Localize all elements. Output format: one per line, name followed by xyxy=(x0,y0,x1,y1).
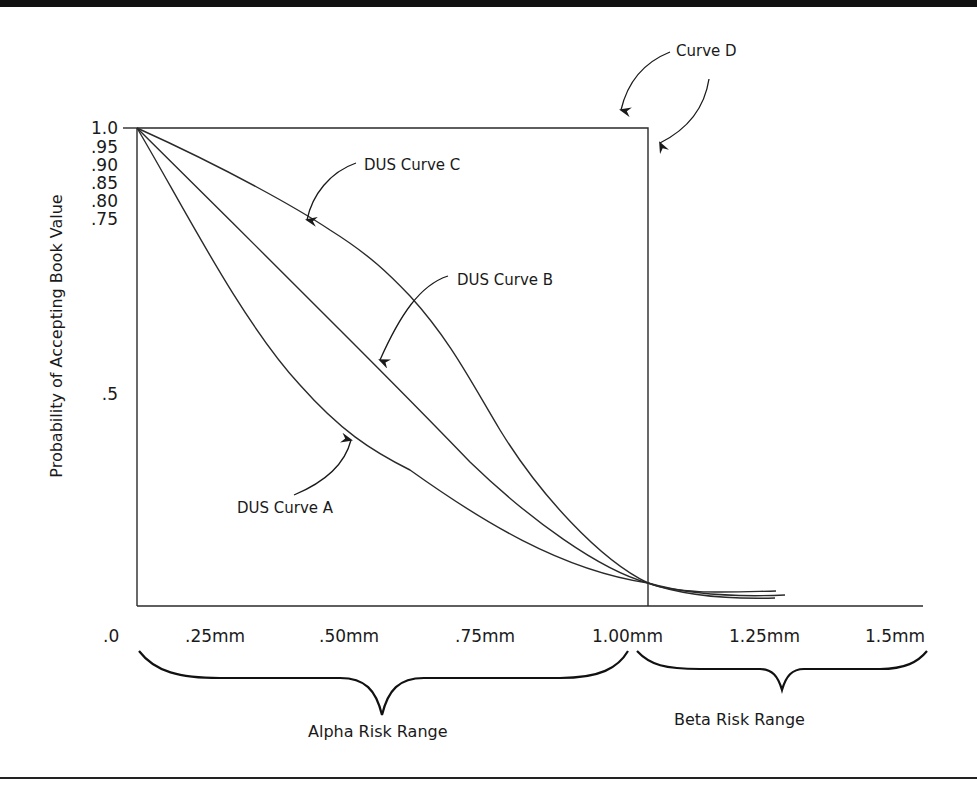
curve-b-arrow xyxy=(380,276,448,360)
y-tick-label: .5 xyxy=(78,385,118,403)
curve-a-arrow xyxy=(294,440,351,495)
alpha-risk-range-label: Alpha Risk Range xyxy=(308,722,448,741)
y-tick-label: .75 xyxy=(78,210,118,228)
y-tick-label: 1.0 xyxy=(78,119,118,137)
y-tick-label: .95 xyxy=(78,138,118,156)
curve-d-arrow-right xyxy=(660,79,709,143)
curve-d-arrow-left xyxy=(621,52,670,110)
alpha-brace xyxy=(139,651,628,715)
x-tick-label: .75mm xyxy=(455,626,515,646)
curve-b xyxy=(137,128,785,596)
curve-a xyxy=(137,128,775,598)
curve-a-label: DUS Curve A xyxy=(237,499,333,517)
y-tick-label: .85 xyxy=(78,174,118,192)
beta-risk-range-label: Beta Risk Range xyxy=(674,710,805,729)
x-tick-label: .0 xyxy=(103,626,119,646)
x-tick-label: .50mm xyxy=(319,626,379,646)
y-axis-label: Probability of Accepting Book Value xyxy=(47,194,66,477)
beta-brace xyxy=(637,651,927,690)
x-tick-label: 1.00mm xyxy=(592,626,663,646)
x-tick-label: 1.5mm xyxy=(865,626,925,646)
y-tick-label: .90 xyxy=(78,156,118,174)
x-tick-label: .25mm xyxy=(185,626,245,646)
curve-c-label: DUS Curve C xyxy=(364,156,460,174)
y-tick-label: .80 xyxy=(78,192,118,210)
bottom-rule xyxy=(0,777,977,779)
x-tick-label: 1.25mm xyxy=(729,626,800,646)
curve-c-arrow xyxy=(307,163,356,220)
curve-d-label: Curve D xyxy=(676,42,737,60)
curve-d xyxy=(137,128,648,606)
curve-c xyxy=(137,128,776,592)
chart-plot xyxy=(0,0,977,794)
curve-b-label: DUS Curve B xyxy=(457,271,553,289)
